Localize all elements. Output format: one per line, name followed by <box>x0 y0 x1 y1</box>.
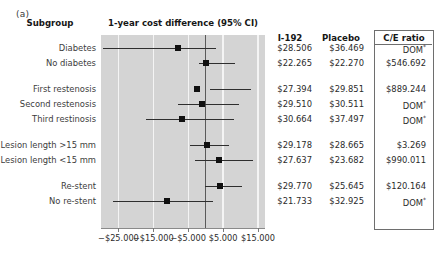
value-ce-ratio: DOM* <box>372 43 426 55</box>
point-estimate-marker <box>216 157 222 163</box>
confidence-interval-line <box>146 119 233 120</box>
subgroup-label: Third restinosis <box>0 114 96 124</box>
x-tick-3 <box>223 228 224 232</box>
ce-footnote-marker: * <box>423 43 426 50</box>
value-i192: $27.394 <box>266 84 312 94</box>
x-tick-label: $15.000 <box>228 233 288 243</box>
point-estimate-marker <box>175 45 181 51</box>
subgroup-label: No re-stent <box>0 196 96 206</box>
value-ce-ratio: DOM* <box>372 114 426 126</box>
value-i192: $30.664 <box>266 114 312 124</box>
point-estimate-marker <box>217 183 223 189</box>
forest-plot-figure: (a) Subgroup 1-year cost difference (95%… <box>0 0 440 257</box>
subgroup-label: Lesion length <15 mm <box>0 155 96 165</box>
x-tick-2 <box>188 228 189 232</box>
value-ce-ratio: $990.011 <box>372 155 426 165</box>
subgroup-label: Second restenosis <box>0 99 96 109</box>
point-estimate-marker <box>199 101 205 107</box>
value-i192: $29.770 <box>266 181 312 191</box>
x-tick-4 <box>258 228 259 232</box>
value-i192: $28.506 <box>266 43 312 53</box>
confidence-interval-line <box>178 104 239 105</box>
plot-area <box>101 35 265 228</box>
subgroup-label: Lesion length >15 mm <box>0 140 96 150</box>
value-i192: $27.637 <box>266 155 312 165</box>
confidence-interval-line <box>210 89 251 90</box>
value-placebo: $37.497 <box>316 114 364 124</box>
column-header-subgroup: Subgroup <box>0 18 100 28</box>
point-estimate-marker <box>164 198 170 204</box>
value-ce-ratio: $546.692 <box>372 58 426 68</box>
subgroup-label: First restenosis <box>0 84 96 94</box>
ce-footnote-marker: * <box>423 99 426 106</box>
value-placebo: $36.469 <box>316 43 364 53</box>
value-ce-ratio: DOM* <box>372 196 426 208</box>
confidence-interval-line <box>205 186 242 187</box>
value-placebo: $29.851 <box>316 84 364 94</box>
column-header-i192: I-192 <box>268 33 312 43</box>
value-ce-ratio: $120.164 <box>372 181 426 191</box>
subgroup-label: Diabetes <box>0 43 96 53</box>
value-ce-ratio: DOM* <box>372 99 426 111</box>
value-i192: $29.510 <box>266 99 312 109</box>
value-placebo: $30.511 <box>316 99 364 109</box>
value-ce-ratio: $889.244 <box>372 84 426 94</box>
value-i192: $21.733 <box>266 196 312 206</box>
point-estimate-marker <box>179 116 185 122</box>
point-estimate-marker <box>204 142 210 148</box>
ce-footnote-marker: * <box>423 114 426 121</box>
x-axis-line <box>101 228 265 229</box>
value-placebo: $25.645 <box>316 181 364 191</box>
x-tick-0 <box>118 228 119 232</box>
ce-footnote-marker: * <box>423 196 426 203</box>
point-estimate-marker <box>203 60 209 66</box>
subgroup-label: Re-stent <box>0 181 96 191</box>
subgroup-label: No diabetes <box>0 58 96 68</box>
value-placebo: $28.665 <box>316 140 364 150</box>
gridline-1 <box>153 35 154 228</box>
plot-title: 1-year cost difference (95% CI) <box>101 18 265 28</box>
column-header-placebo: Placebo <box>316 33 366 43</box>
point-estimate-marker <box>194 86 200 92</box>
confidence-interval-line <box>195 160 253 161</box>
value-placebo: $32.925 <box>316 196 364 206</box>
value-placebo: $22.270 <box>316 58 364 68</box>
value-ce-ratio: $3.269 <box>372 140 426 150</box>
gridline-2 <box>188 35 189 228</box>
x-tick-1 <box>153 228 154 232</box>
gridline-0 <box>118 35 119 228</box>
gridline-4 <box>257 35 258 228</box>
value-placebo: $23.682 <box>316 155 364 165</box>
value-i192: $29.178 <box>266 140 312 150</box>
confidence-interval-line <box>103 48 216 49</box>
value-i192: $22.265 <box>266 58 312 68</box>
